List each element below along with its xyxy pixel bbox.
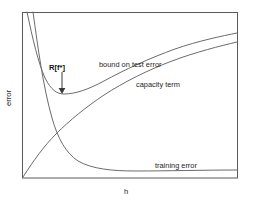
optimum-annotation-arrow bbox=[59, 72, 66, 94]
structural-risk-minimization-chart: bound on test error capacity term traini… bbox=[0, 0, 253, 201]
chart-figure: bound on test error capacity term traini… bbox=[0, 0, 253, 201]
plot-frame bbox=[23, 13, 238, 179]
axes-box bbox=[23, 13, 238, 179]
curve-bound-on-test-error bbox=[27, 12, 237, 94]
curve-training-error bbox=[33, 12, 237, 171]
label-capacity-term: capacity term bbox=[136, 80, 180, 89]
y-axis-label: error bbox=[4, 90, 13, 107]
x-axis-label: h bbox=[124, 187, 128, 196]
label-training-error: training error bbox=[155, 161, 197, 170]
label-bound-on-test-error: bound on test error bbox=[99, 60, 162, 69]
label-optimum-risk: R[f*] bbox=[49, 63, 65, 72]
